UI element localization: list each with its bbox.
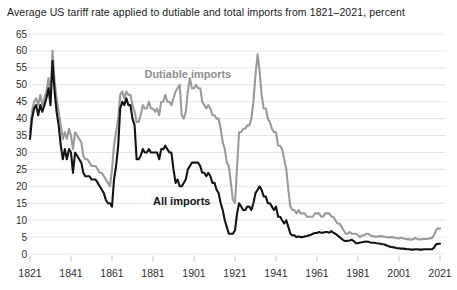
chart-panel: Average US tariff rate applied to dutiab…: [0, 0, 457, 290]
x-tick-label: 1961: [305, 267, 329, 279]
y-tick-label: 45: [16, 96, 28, 107]
x-tick-label: 1841: [59, 267, 83, 279]
x-tick-label: 1861: [100, 267, 124, 279]
series-line-all-imports: [30, 61, 440, 250]
y-tick-label: 50: [16, 79, 28, 90]
y-tick-label: 25: [16, 164, 28, 175]
x-tick-label: 1921: [223, 267, 247, 279]
x-axis-group: 1821184118611881190119211941196119812001…: [18, 256, 452, 279]
y-tick-label: 40: [16, 113, 28, 124]
x-tick-label: 2001: [387, 267, 411, 279]
series-line-dutiable-imports: [30, 51, 440, 240]
y-tick-label: 35: [16, 130, 28, 141]
y-tick-label: 5: [21, 232, 27, 243]
series-label-all-imports: All imports: [153, 195, 210, 207]
y-tick-label: 15: [16, 198, 28, 209]
y-tick-label: 30: [16, 147, 28, 158]
x-tick-label: 1981: [346, 267, 370, 279]
y-tick-label: 55: [16, 62, 28, 73]
y-tick-label: 10: [16, 215, 28, 226]
y-tick-label: 65: [16, 29, 28, 40]
x-tick-label: 1881: [141, 267, 165, 279]
tariff-line-chart: 0510152025303540455055606518211841186118…: [0, 0, 457, 290]
y-tick-label: 60: [16, 45, 28, 56]
y-tick-label: 20: [16, 181, 28, 192]
series-label-dutiable-imports: Dutiable imports: [144, 68, 231, 80]
y-tick-label: 0: [21, 249, 27, 260]
y-axis-labels-group: 05101520253035404550556065: [16, 29, 28, 260]
x-tick-label: 1821: [18, 267, 42, 279]
x-tick-label: 1941: [264, 267, 288, 279]
x-tick-label: 2021: [428, 267, 452, 279]
x-tick-label: 1901: [182, 267, 206, 279]
